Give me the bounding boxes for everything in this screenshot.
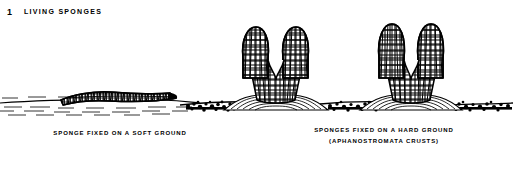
reclining-sponge	[58, 90, 180, 106]
bifurcate-sponge-left	[224, 25, 328, 110]
caption-hard-ground: SPONGES FIXED ON A HARD GROUND	[255, 127, 513, 133]
sponge-illustration	[0, 0, 513, 174]
caption-hard-ground-subtitle: (APHANOSTROMATA CRUSTS)	[255, 138, 513, 144]
caption-soft-ground: SPONGE FIXED ON A SOFT GROUND	[0, 130, 240, 136]
figure-living-sponges: 1 LIVING SPONGES	[0, 0, 513, 174]
bifurcate-sponge-right	[360, 22, 462, 110]
